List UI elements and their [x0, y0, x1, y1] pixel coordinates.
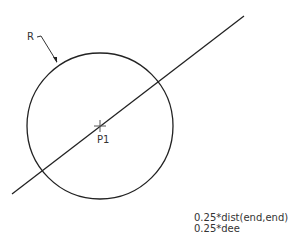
- radius-leader: [37, 36, 57, 63]
- formula-line-1: 0.25*dist(end,end): [194, 212, 288, 223]
- drawing-canvas: [0, 0, 298, 244]
- diagonal-line: [12, 16, 244, 194]
- radius-label: R: [27, 31, 34, 42]
- point-label-p1: P1: [97, 134, 109, 145]
- formula-line-2: 0.25*dee: [194, 223, 240, 234]
